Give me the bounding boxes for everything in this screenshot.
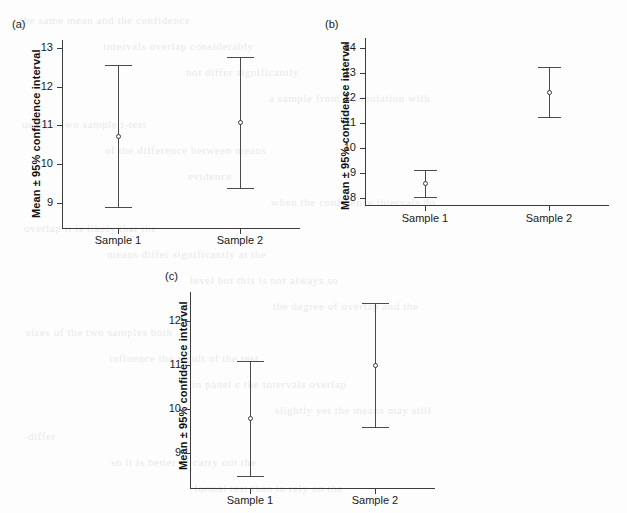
y-axis-tick-label: 13: [330, 66, 356, 78]
mean-marker: [116, 134, 121, 139]
ghost-text-line: differ: [28, 430, 56, 442]
mean-marker: [547, 90, 552, 95]
x-axis-tick-label: Sample 1: [385, 212, 465, 224]
figure-page: the same mean and the confidenceinterval…: [0, 0, 627, 513]
error-bar-cap: [414, 197, 437, 198]
mean-marker: [248, 416, 253, 421]
x-axis-tick-label: Sample 2: [335, 494, 415, 506]
error-bar-cap: [105, 65, 132, 66]
y-axis-tick: [360, 48, 365, 49]
error-bar-cap: [227, 188, 254, 189]
x-axis-tick-label: Sample 2: [200, 234, 280, 246]
x-axis-tick-label: Sample 1: [210, 494, 290, 506]
y-axis-tick-label: 11: [155, 358, 181, 370]
y-axis-tick: [360, 98, 365, 99]
x-axis-tick: [549, 206, 550, 211]
x-axis-tick-label: Sample 2: [509, 212, 589, 224]
y-axis-tick-label: 9: [27, 196, 53, 208]
y-axis-line: [62, 40, 63, 228]
y-axis-tick: [57, 48, 62, 49]
y-axis-tick-label: 9: [155, 446, 181, 458]
y-axis-tick: [360, 173, 365, 174]
panel-c-plot-area: 9101112Sample 1Sample 2: [150, 258, 480, 513]
error-bar-cap: [227, 57, 254, 58]
y-axis-tick-label: 11: [27, 118, 53, 130]
error-bar-cap: [105, 207, 132, 208]
y-axis-line: [190, 292, 191, 488]
y-axis-tick-label: 12: [330, 91, 356, 103]
y-axis-tick: [57, 87, 62, 88]
y-axis-tick: [360, 198, 365, 199]
error-bar-cap: [362, 303, 389, 304]
y-axis-tick: [185, 453, 190, 454]
y-axis-tick-label: 11: [330, 116, 356, 128]
mean-marker: [238, 120, 243, 125]
error-bar-cap: [237, 476, 264, 477]
y-axis-tick: [185, 409, 190, 410]
y-axis-tick-label: 10: [155, 402, 181, 414]
y-axis-tick-label: 12: [155, 314, 181, 326]
x-axis-line: [365, 205, 609, 206]
y-axis-tick: [57, 164, 62, 165]
x-axis-line: [62, 228, 300, 229]
mean-marker: [423, 181, 428, 186]
error-bar-cap: [362, 427, 389, 428]
y-axis-line: [365, 38, 366, 205]
y-axis-tick: [185, 365, 190, 366]
y-axis-tick-label: 9: [330, 166, 356, 178]
error-bar-cap: [538, 67, 561, 68]
y-axis-tick-label: 10: [330, 141, 356, 153]
mean-marker: [373, 363, 378, 368]
panel-a-plot-area: 910111213Sample 1Sample 2: [0, 0, 310, 258]
error-bar-cap: [538, 117, 561, 118]
panel-b: (b) Mean ± 95% confidence interval 89101…: [313, 0, 627, 258]
error-bar-cap: [414, 170, 437, 171]
y-axis-tick: [360, 123, 365, 124]
y-axis-tick-label: 8: [330, 191, 356, 203]
x-axis-tick: [425, 206, 426, 211]
y-axis-tick: [360, 148, 365, 149]
y-axis-tick: [57, 125, 62, 126]
x-axis-tick-label: Sample 1: [78, 234, 158, 246]
panel-a: (a) Mean ± 95% confidence interval 91011…: [0, 0, 310, 258]
y-axis-tick-label: 10: [27, 157, 53, 169]
y-axis-tick-label: 12: [27, 80, 53, 92]
x-axis-line: [190, 488, 435, 489]
error-bar-cap: [237, 361, 264, 362]
panel-b-plot-area: 891011121314Sample 1Sample 2: [313, 0, 627, 258]
y-axis-tick: [185, 321, 190, 322]
y-axis-tick-label: 14: [330, 41, 356, 53]
y-axis-tick-label: 13: [27, 41, 53, 53]
y-axis-tick: [360, 73, 365, 74]
panel-c: (c) Mean ± 95% confidence interval 91011…: [150, 258, 480, 513]
y-axis-tick: [57, 203, 62, 204]
